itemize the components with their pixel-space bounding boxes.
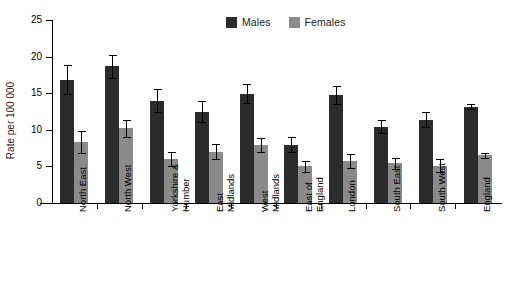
error-cap-upper xyxy=(257,138,265,139)
error-bar-females-3 xyxy=(216,144,217,159)
x-tick-separator xyxy=(142,203,143,209)
x-category-label-line: Midlands xyxy=(225,174,236,212)
bar-males-7 xyxy=(374,127,388,203)
error-cap-lower xyxy=(422,127,430,128)
error-cap-lower xyxy=(288,152,296,153)
y-tick-0 xyxy=(46,203,52,204)
error-cap-upper xyxy=(347,154,355,155)
error-cap-lower xyxy=(333,104,341,105)
error-bar-females-1 xyxy=(126,120,127,138)
x-tick-separator xyxy=(97,203,98,209)
bar-males-1 xyxy=(105,66,119,203)
error-cap-lower xyxy=(481,158,489,159)
error-cap-upper xyxy=(422,112,430,113)
x-category-label-line: West xyxy=(260,174,271,212)
error-cap-upper xyxy=(78,131,86,132)
error-cap-upper xyxy=(123,120,131,121)
y-axis-title-text: Rate per 100 000 xyxy=(6,81,17,158)
y-tick-label-5: 5 xyxy=(22,160,42,171)
x-category-label: Yorkshire &Humber xyxy=(170,164,191,212)
error-bar-males-8 xyxy=(426,112,427,127)
y-axis-title: Rate per 100 000 xyxy=(2,60,20,180)
error-cap-lower xyxy=(378,133,386,134)
x-tick-separator xyxy=(366,203,367,209)
error-cap-lower xyxy=(347,168,355,169)
error-bar-males-7 xyxy=(381,120,382,134)
error-cap-upper xyxy=(168,152,176,153)
x-category-label-line: South East xyxy=(392,166,403,212)
error-cap-lower xyxy=(257,152,265,153)
error-cap-lower xyxy=(243,103,251,104)
error-cap-upper xyxy=(392,158,400,159)
error-cap-lower xyxy=(302,172,310,173)
error-bar-females-0 xyxy=(81,131,82,154)
error-cap-lower xyxy=(198,122,206,123)
x-category-label-line: South West xyxy=(437,163,448,212)
error-bar-males-2 xyxy=(157,89,158,112)
error-cap-lower xyxy=(123,137,131,138)
x-category-label-line: North West xyxy=(123,165,134,212)
x-category-label: London xyxy=(347,180,358,212)
bar-males-6 xyxy=(329,95,343,203)
y-tick-label-20: 20 xyxy=(22,51,42,62)
x-tick-separator xyxy=(455,203,456,209)
error-cap-lower xyxy=(467,109,475,110)
x-category-label-line: England xyxy=(315,177,326,212)
x-tick-separator xyxy=(410,203,411,209)
error-cap-upper xyxy=(212,144,220,145)
error-cap-upper xyxy=(243,84,251,85)
x-category-label: South West xyxy=(437,163,448,212)
x-category-label-line: East xyxy=(215,174,226,212)
x-category-label: WestMidlands xyxy=(260,174,281,212)
bar-males-2 xyxy=(150,101,164,203)
error-bar-males-3 xyxy=(202,101,203,122)
bar-males-3 xyxy=(195,112,209,203)
error-bar-females-6 xyxy=(350,154,351,168)
error-cap-upper xyxy=(64,65,72,66)
error-bar-males-4 xyxy=(247,84,248,103)
error-cap-upper xyxy=(154,89,162,90)
x-category-label-line: Humber xyxy=(181,164,192,212)
error-bar-females-5 xyxy=(305,161,306,172)
error-bar-females-4 xyxy=(261,138,262,152)
x-category-label-line: England xyxy=(482,177,493,212)
x-category-label-line: Midlands xyxy=(270,174,281,212)
bar-males-4 xyxy=(240,94,254,203)
error-cap-upper xyxy=(288,137,296,138)
y-tick-label-25: 25 xyxy=(22,14,42,25)
error-cap-lower xyxy=(212,159,220,160)
error-cap-upper xyxy=(378,120,386,121)
x-category-label-line: North East xyxy=(78,167,89,212)
x-category-label: England xyxy=(482,177,493,212)
error-cap-upper xyxy=(302,161,310,162)
x-category-label: EastMidlands xyxy=(215,174,236,212)
error-cap-upper xyxy=(467,104,475,105)
bar-chart: Males Females Rate per 100 000 051015202… xyxy=(0,0,526,299)
error-cap-lower xyxy=(78,153,86,154)
error-bar-males-1 xyxy=(112,55,113,78)
y-tick-label-0: 0 xyxy=(22,197,42,208)
error-bar-males-6 xyxy=(336,86,337,104)
error-cap-lower xyxy=(154,112,162,113)
x-category-label: North West xyxy=(123,165,134,212)
bar-males-8 xyxy=(419,120,433,203)
x-category-label: East ofEngland xyxy=(304,177,325,212)
bar-males-9 xyxy=(464,107,478,203)
y-tick-label-10: 10 xyxy=(22,124,42,135)
error-cap-upper xyxy=(109,55,117,56)
error-bar-males-5 xyxy=(291,137,292,152)
y-tick-label-15: 15 xyxy=(22,87,42,98)
error-cap-upper xyxy=(481,153,489,154)
x-category-label: North East xyxy=(78,167,89,212)
bar-males-5 xyxy=(284,145,298,203)
x-category-label: South East xyxy=(392,166,403,212)
x-category-label-line: London xyxy=(347,180,358,212)
x-category-label-line: Yorkshire & xyxy=(170,164,181,212)
error-cap-upper xyxy=(198,101,206,102)
error-bar-males-0 xyxy=(67,65,68,94)
error-cap-lower xyxy=(64,94,72,95)
error-cap-upper xyxy=(436,159,444,160)
error-cap-lower xyxy=(109,78,117,79)
error-cap-upper xyxy=(333,86,341,87)
bar-males-0 xyxy=(60,80,74,203)
